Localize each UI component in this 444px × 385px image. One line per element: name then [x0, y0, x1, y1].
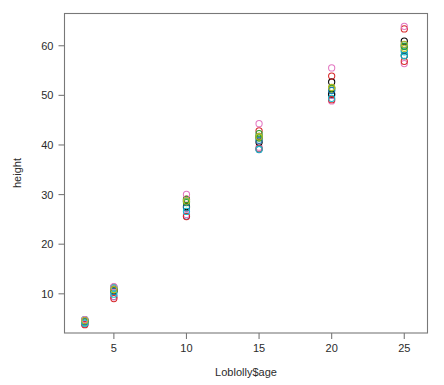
- y-axis-tick-labels: 102030405060: [41, 40, 53, 300]
- data-point: [329, 65, 335, 71]
- data-points-group: [82, 23, 408, 328]
- x-axis-ticks: [114, 333, 404, 339]
- y-tick-label-50: 50: [41, 89, 53, 101]
- y-tick-label-20: 20: [41, 238, 53, 250]
- y-tick-label-10: 10: [41, 288, 53, 300]
- scatter-plot-figure: 510152025 102030405060 Loblolly$age heig…: [0, 0, 444, 385]
- x-axis-title: Loblolly$age: [215, 366, 277, 378]
- y-tick-label-60: 60: [41, 40, 53, 52]
- x-tick-label-10: 10: [180, 342, 192, 354]
- x-tick-label-25: 25: [398, 342, 410, 354]
- y-axis-title: height: [11, 158, 23, 188]
- plot-canvas: 510152025 102030405060 Loblolly$age heig…: [0, 0, 444, 385]
- y-tick-label-30: 30: [41, 189, 53, 201]
- y-axis-ticks: [59, 46, 65, 294]
- data-point: [256, 121, 262, 127]
- x-tick-label-5: 5: [111, 342, 117, 354]
- plot-frame: [65, 14, 428, 334]
- x-axis-tick-labels: 510152025: [111, 342, 411, 354]
- x-tick-label-15: 15: [253, 342, 265, 354]
- y-tick-label-40: 40: [41, 139, 53, 151]
- x-tick-label-20: 20: [326, 342, 338, 354]
- data-point: [329, 73, 335, 79]
